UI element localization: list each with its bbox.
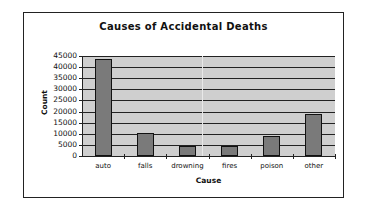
gridline — [82, 56, 335, 57]
y-tick — [79, 112, 83, 113]
y-axis — [82, 56, 83, 157]
x-tick-label: other — [292, 162, 336, 170]
x-tick — [251, 154, 252, 159]
x-tick-label: poison — [250, 162, 294, 170]
bar-drowning — [179, 146, 196, 156]
y-tick — [79, 134, 83, 135]
x-tick-label: auto — [81, 162, 125, 170]
x-tick — [166, 154, 167, 159]
y-tick — [79, 145, 83, 146]
x-axis — [79, 156, 335, 157]
bar-poison — [263, 136, 280, 156]
bar-other — [305, 114, 322, 156]
gridline — [82, 78, 335, 79]
x-tick — [124, 154, 125, 159]
y-tick-label: 40000 — [37, 62, 77, 71]
x-tick — [293, 154, 294, 159]
y-tick — [79, 89, 83, 90]
x-tick — [209, 154, 210, 159]
y-tick — [79, 100, 83, 101]
gridline — [82, 145, 335, 146]
x-tick-label: drowning — [165, 162, 209, 170]
y-tick-label: 35000 — [37, 73, 77, 82]
bar-fires — [221, 146, 238, 156]
y-tick-label: 10000 — [37, 129, 77, 138]
plot-area — [82, 56, 335, 156]
gridline — [82, 67, 335, 68]
y-tick — [79, 78, 83, 79]
x-tick-label: fires — [208, 162, 252, 170]
chart-title: Causes of Accidental Deaths — [0, 21, 367, 32]
y-tick — [79, 67, 83, 68]
gridline — [82, 89, 335, 90]
gridline — [82, 123, 335, 124]
gridline — [82, 112, 335, 113]
y-tick-label: 0 — [37, 151, 77, 160]
y-tick — [79, 56, 83, 57]
y-tick — [79, 156, 83, 157]
gridline — [82, 134, 335, 135]
bar-falls — [137, 133, 154, 156]
x-tick-label: falls — [123, 162, 167, 170]
y-axis-title: Count — [40, 83, 49, 123]
gridline — [82, 100, 335, 101]
x-axis-title: Cause — [82, 176, 335, 185]
plot-separator — [202, 56, 203, 156]
y-tick-label: 5000 — [37, 140, 77, 149]
y-tick — [79, 123, 83, 124]
y-tick-label: 45000 — [37, 51, 77, 60]
bar-auto — [95, 59, 112, 156]
x-tick — [335, 154, 336, 159]
